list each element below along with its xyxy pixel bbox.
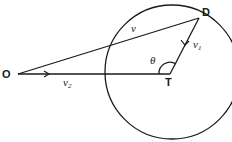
vector-diagram: O T D v v1 v2 θ: [0, 0, 232, 142]
point-T-label: T: [165, 76, 172, 88]
vector-v1-label: v1: [193, 38, 201, 52]
point-O-label: O: [2, 68, 11, 80]
circle: [105, 5, 232, 139]
angle-theta-label: θ: [150, 54, 156, 66]
line-O-D: [18, 18, 199, 74]
vector-v2-label: v2: [63, 76, 72, 90]
vector-v-label: v: [131, 22, 136, 34]
point-D-label: D: [202, 6, 210, 18]
